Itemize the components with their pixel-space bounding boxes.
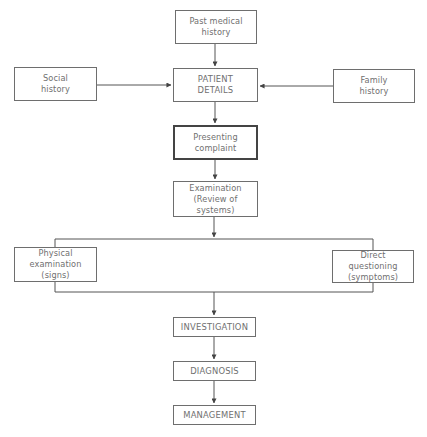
management-label: MANAGEMENT [183,410,245,421]
family-history-box: Family history [333,69,415,103]
past-medical-history-box: Past medical history [175,10,257,44]
social-history-line1: Social [41,73,70,84]
past-medical-history-line1: Past medical [189,16,242,27]
social-history-box: Social history [14,67,97,101]
family-history-line1: Family [360,75,389,86]
investigation-label: INVESTIGATION [181,322,248,333]
direct-questioning-box: Direct questioning (symptoms) [332,250,414,283]
direct-questioning-line2: (symptoms) [335,272,411,283]
patient-details-box: PATIENT DETAILS [173,68,258,102]
flowchart-canvas: Past medical history Social history PATI… [0,0,427,437]
presenting-complaint-line2: complaint [193,143,237,154]
past-medical-history-line2: history [189,27,242,38]
presenting-complaint-line1: Presenting [193,132,237,143]
examination-box: Examination (Review of systems) [173,181,258,217]
management-box: MANAGEMENT [173,405,256,425]
diagnosis-label: DIAGNOSIS [190,366,239,377]
physical-examination-line2: examination (signs) [17,259,94,281]
patient-details-line1: PATIENT [198,74,234,85]
investigation-box: INVESTIGATION [173,317,256,337]
examination-line1: Examination [176,183,255,194]
direct-questioning-line1: Direct questioning [335,250,411,272]
family-history-line2: history [360,86,389,97]
presenting-complaint-box: Presenting complaint [173,125,258,160]
examination-line2: (Review of systems) [176,194,255,216]
patient-details-line2: DETAILS [198,85,234,96]
physical-examination-box: Physical examination (signs) [14,247,97,282]
bracket-bottom [55,282,373,292]
diagnosis-box: DIAGNOSIS [173,361,256,381]
physical-examination-line1: Physical [17,248,94,259]
bracket-top [55,239,373,250]
social-history-line2: history [41,84,70,95]
